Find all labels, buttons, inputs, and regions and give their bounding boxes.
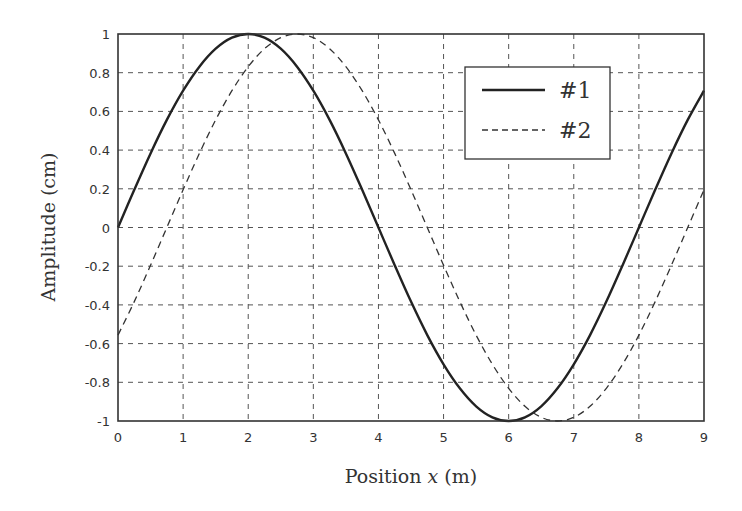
y-tick-label: 0.8	[89, 66, 110, 81]
x-tick-label: 0	[114, 430, 122, 445]
legend-label-2: #2	[559, 118, 591, 143]
y-tick-label: 1	[102, 27, 110, 42]
y-tick-label: -0.6	[85, 337, 110, 352]
y-tick-label: -0.2	[85, 259, 110, 274]
y-tick-label: -0.8	[85, 375, 110, 390]
y-tick-label: 0.4	[89, 143, 110, 158]
x-axis-title: Position x (m)	[345, 465, 477, 487]
x-tick-label: 1	[179, 430, 187, 445]
y-tick-label: -0.4	[85, 298, 110, 313]
x-tick-label: 9	[700, 430, 708, 445]
x-tick-label: 2	[244, 430, 252, 445]
x-tick-label: 8	[635, 430, 643, 445]
legend-label-1: #1	[559, 78, 591, 103]
x-tick-label: 7	[570, 430, 578, 445]
x-tick-label: 4	[374, 430, 382, 445]
x-tick-label: 3	[309, 430, 317, 445]
x-axis-ticks: 0123456789	[114, 430, 708, 445]
legend: #1 #2	[465, 67, 610, 159]
line-chart: 0123456789 10.80.60.40.20-0.2-0.4-0.6-0.…	[0, 0, 742, 511]
y-tick-label: -1	[97, 414, 110, 429]
y-tick-label: 0	[102, 221, 110, 236]
y-axis-ticks: 10.80.60.40.20-0.2-0.4-0.6-0.8-1	[85, 27, 110, 429]
x-tick-label: 5	[439, 430, 447, 445]
x-tick-label: 6	[505, 430, 513, 445]
y-axis-title: Amplitude (cm)	[37, 153, 59, 303]
y-tick-label: 0.6	[89, 104, 110, 119]
y-tick-label: 0.2	[89, 182, 110, 197]
grid-lines	[118, 34, 704, 421]
